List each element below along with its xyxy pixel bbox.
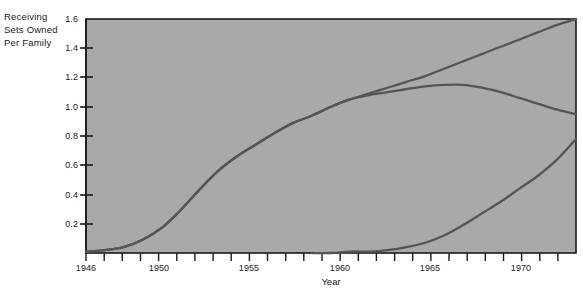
chart-canvas — [0, 0, 583, 294]
plot-area-background — [86, 19, 576, 253]
chart-figure: Receiving Sets Owned Per Family 1.6 1.4 … — [0, 0, 583, 294]
